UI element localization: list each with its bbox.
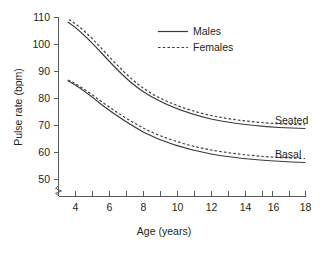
curve-seated-females xyxy=(69,20,305,125)
curve-seated-males xyxy=(68,22,305,128)
legend-item-males: Males xyxy=(158,25,221,37)
x-tick-label-10: 10 xyxy=(172,201,184,213)
legend-label-females: Females xyxy=(193,41,233,53)
y-tick-label-80: 80 xyxy=(38,92,50,104)
y-tick-marks xyxy=(54,18,59,180)
y-axis-title: Pulse rate (bpm) xyxy=(12,68,24,146)
curve-basal-females xyxy=(68,80,305,159)
x-axis-title: Age (years) xyxy=(137,225,191,237)
x-tick-label-14: 14 xyxy=(240,201,252,213)
y-axis xyxy=(56,17,62,196)
pulse-rate-chart-figure: 50 60 70 80 90 100 110 4 xyxy=(0,0,329,253)
x-tick-label-4: 4 xyxy=(73,201,79,213)
curve-basal-males xyxy=(68,81,305,163)
chart-canvas: 50 60 70 80 90 100 110 4 xyxy=(0,0,329,253)
x-tick-labels: 4 6 8 10 12 14 16 18 xyxy=(73,201,312,213)
x-tick-label-12: 12 xyxy=(206,201,218,213)
x-tick-label-6: 6 xyxy=(107,201,113,213)
legend-item-females: Females xyxy=(158,41,233,53)
legend-label-males: Males xyxy=(193,25,221,37)
x-tick-marks xyxy=(76,191,306,197)
x-tick-label-18: 18 xyxy=(300,201,312,213)
y-tick-label-90: 90 xyxy=(38,65,50,77)
y-tick-label-70: 70 xyxy=(38,119,50,131)
x-tick-label-16: 16 xyxy=(268,201,280,213)
x-tick-label-8: 8 xyxy=(141,201,147,213)
y-tick-label-100: 100 xyxy=(32,38,50,50)
annotation-basal: Basal xyxy=(275,148,301,160)
annotation-seated: Seated xyxy=(275,114,308,126)
y-tick-label-110: 110 xyxy=(33,11,50,23)
data-curves xyxy=(68,20,305,163)
y-tick-label-50: 50 xyxy=(38,173,50,185)
chart-legend: Males Females xyxy=(158,25,233,53)
y-tick-label-60: 60 xyxy=(38,146,50,158)
y-tick-labels: 50 60 70 80 90 100 110 xyxy=(32,11,50,185)
